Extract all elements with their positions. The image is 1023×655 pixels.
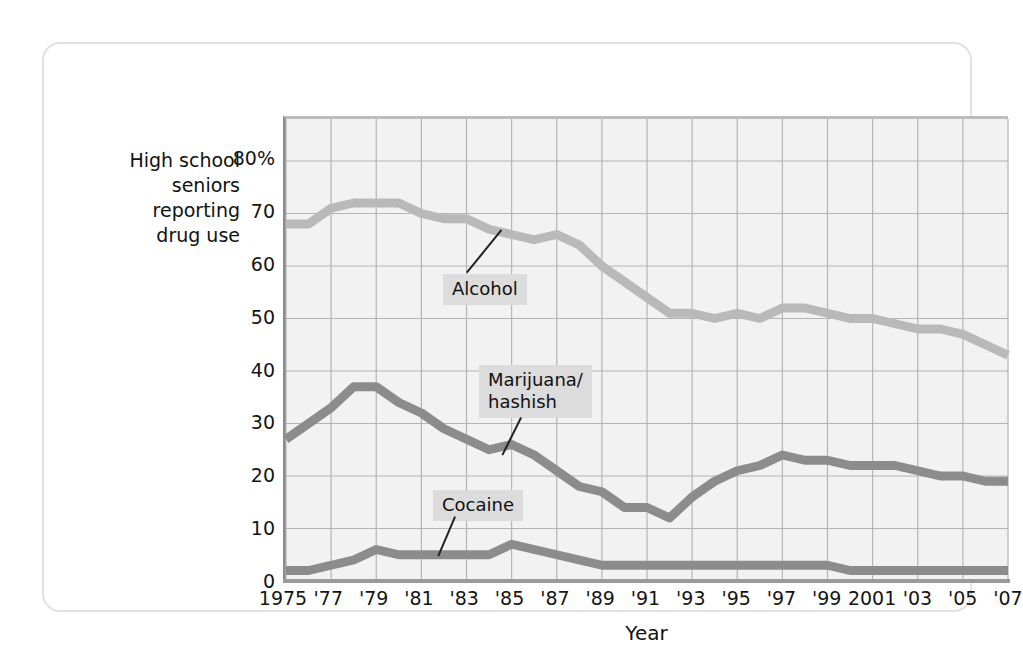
x-tick-label: '93: [676, 587, 705, 609]
x-tick-label: '79: [359, 587, 388, 609]
x-tick-label: '85: [495, 587, 524, 609]
x-axis-ticks: 1975'77'79'81'83'85'87'89'91'93'95'97'99…: [283, 587, 1010, 615]
x-tick-label: '89: [585, 587, 614, 609]
x-tick-label: '99: [812, 587, 841, 609]
plot-inner: [286, 119, 1008, 581]
y-tick-label: 40: [203, 359, 275, 381]
x-tick-label: '07: [993, 587, 1022, 609]
x-tick-label: '97: [767, 587, 796, 609]
figure-card: High school seniors reporting drug use 0…: [42, 42, 972, 612]
x-tick-label: '81: [404, 587, 433, 609]
series-line-cocaine: [286, 544, 1008, 570]
y-tick-label: 50: [203, 306, 275, 328]
x-tick-label: '95: [721, 587, 750, 609]
x-tick-label: 2001: [848, 587, 896, 609]
x-tick-label: '83: [450, 587, 479, 609]
series-label-marijuana: Marijuana/ hashish: [479, 365, 592, 418]
y-axis-ticks: 01020304050607080%: [199, 116, 275, 581]
x-axis-title: Year: [283, 621, 1010, 645]
y-tick-label: 70: [203, 200, 275, 222]
x-axis-line: [283, 579, 1010, 583]
x-tick-label: '05: [948, 587, 977, 609]
x-tick-label: '03: [903, 587, 932, 609]
x-tick-label: '87: [540, 587, 569, 609]
x-tick-label: '77: [314, 587, 343, 609]
y-tick-label: 60: [203, 253, 275, 275]
series-line-marijuana-hashish: [286, 387, 1008, 518]
series-label-cocaine: Cocaine: [433, 490, 523, 521]
y-tick-label: 20: [203, 464, 275, 486]
plot-area: [283, 116, 1008, 581]
y-tick-label: 80%: [203, 147, 275, 169]
series-lines: [286, 119, 1008, 581]
y-tick-label: 10: [203, 517, 275, 539]
y-tick-label: 30: [203, 411, 275, 433]
x-tick-label: '91: [631, 587, 660, 609]
series-line-alcohol: [286, 203, 1008, 355]
x-tick-label: 1975: [259, 587, 307, 609]
series-label-alcohol: Alcohol: [443, 274, 527, 305]
